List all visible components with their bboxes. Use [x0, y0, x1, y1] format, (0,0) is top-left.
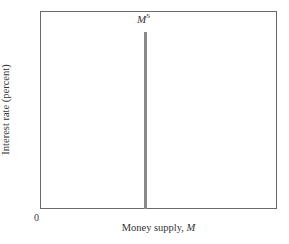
x-axis-label-text: Money supply,	[122, 222, 187, 233]
money-supply-label: MS	[137, 14, 150, 25]
curve-label-sup: S	[146, 12, 150, 20]
y-axis-label: Interest rate (percent)	[0, 50, 11, 170]
x-axis-label: Money supply, M	[0, 222, 289, 233]
money-supply-curve	[144, 32, 147, 209]
plot-area	[40, 11, 277, 209]
curve-label-main: M	[137, 13, 146, 25]
x-axis-label-var: M	[187, 222, 196, 233]
